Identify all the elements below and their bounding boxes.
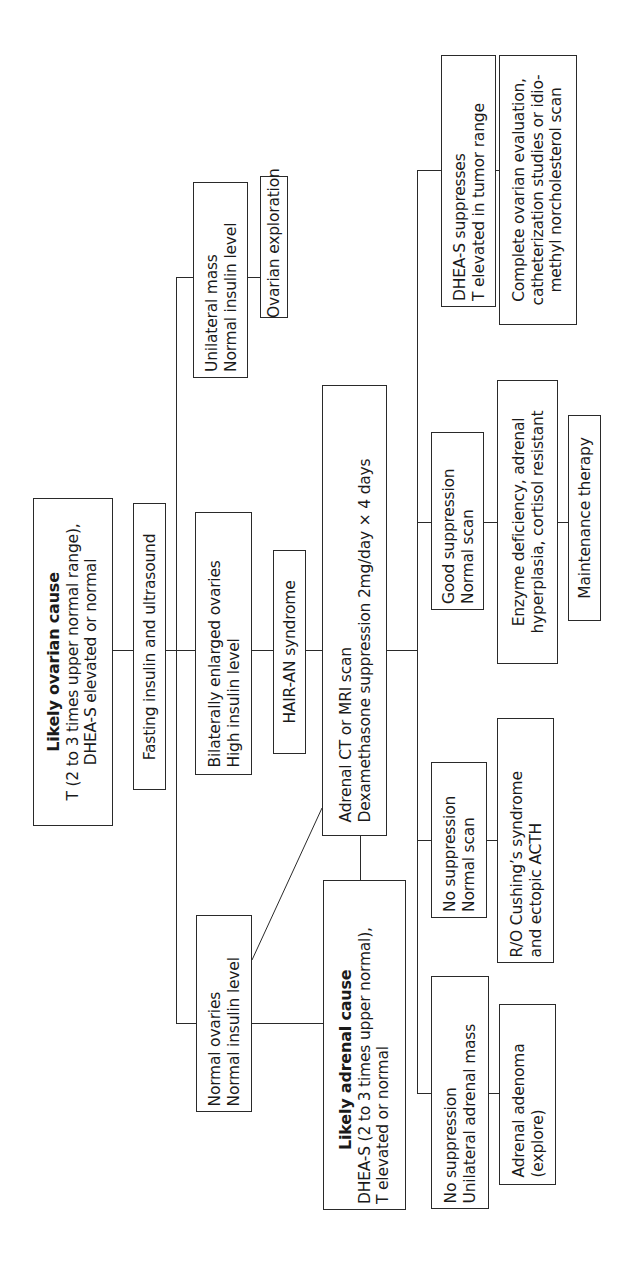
box-adrenal-adenoma: Adrenal adenoma (explore)	[499, 1004, 556, 1185]
likely-adrenal-cause-line2: T elevated or normal	[374, 880, 393, 1210]
connector-spine-nosupunilateral	[417, 1093, 431, 1094]
complete-eval-line3: methyl norcholesterol scan	[547, 55, 566, 325]
bilaterally-enlarged-line1: Bilaterally enlarged ovaries	[205, 512, 224, 775]
dhea-suppresses-line2: T elevated in tumor range	[469, 55, 488, 307]
box-likely-adrenal-cause: Likely adrenal cause DHEA-S (2 to 3 time…	[323, 880, 406, 1210]
connector-nosupnormal-cushings	[487, 840, 497, 841]
complete-eval-line2: catheterization studies or idio-	[529, 55, 548, 325]
box-adrenal-ct: Adrenal CT or MRI scan Dexamethasone sup…	[322, 385, 387, 836]
normal-ovaries-line2: Normal insulin level	[224, 915, 243, 1112]
normal-ovaries-line1: Normal ovaries	[206, 915, 225, 1112]
box-dhea-suppresses: DHEA-S suppresses T elevated in tumor ra…	[441, 55, 496, 307]
likely-adrenal-cause-line1: DHEA-S (2 to 3 times upper normal),	[355, 880, 374, 1210]
hair-an-text: HAIR-AN syndrome	[280, 550, 299, 754]
adrenal-adenoma-line1: Adrenal adenoma	[509, 1004, 528, 1185]
good-suppression-line1: Good suppression	[439, 432, 458, 610]
bilaterally-enlarged-line2: High insulin level	[224, 512, 243, 775]
maintenance-therapy-text: Maintenance therapy	[575, 415, 594, 621]
likely-adrenal-cause-title: Likely adrenal cause	[337, 880, 356, 1210]
box-normal-ovaries: Normal ovaries Normal insulin level	[196, 915, 252, 1112]
box-fasting-insulin: Fasting insulin and ultrasound	[133, 503, 166, 790]
no-suppression-normal-line2: Normal scan	[459, 762, 478, 918]
box-unilateral-mass: Unilateral mass Normal insulin level	[193, 182, 248, 378]
ro-cushings-line1: R/O Cushing’s syndrome	[507, 718, 526, 963]
box-bilaterally-enlarged: Bilaterally enlarged ovaries High insuli…	[195, 512, 252, 775]
enzyme-deficiency-line2: hyperplasia, cortisol resistant	[528, 380, 547, 664]
suppression-spine	[417, 170, 418, 1094]
connector-adrenal-adrenalct	[360, 836, 361, 880]
no-suppression-unilateral-line1: No suppression	[442, 976, 461, 1209]
good-suppression-line2: Normal scan	[458, 432, 477, 610]
complete-eval-line1: Complete ovarian evaluation,	[510, 55, 529, 325]
box-hair-an: HAIR-AN syndrome	[273, 550, 306, 754]
ro-cushings-line2: and ectopic ACTH	[526, 718, 545, 963]
box-no-suppression-unilateral: No suppression Unilateral adrenal mass	[431, 976, 489, 1209]
box-likely-ovarian-cause: Likely ovarian cause T (2 to 3 times upp…	[33, 498, 113, 826]
box-complete-ovarian-evaluation: Complete ovarian evaluation, catheteriza…	[499, 55, 577, 325]
connector-nosupunilateral-adenoma	[489, 1093, 499, 1094]
connector-spine-good	[417, 522, 431, 523]
box-ovarian-exploration: Ovarian exploration	[260, 176, 288, 318]
likely-ovarian-cause-line1: T (2 to 3 times upper normal range),	[64, 498, 83, 826]
connector-spine-nosupnormal	[417, 840, 431, 841]
box-no-suppression-normal-scan: No suppression Normal scan	[431, 762, 487, 918]
likely-ovarian-cause-title: Likely ovarian cause	[45, 498, 64, 826]
connector-good-enzyme	[484, 522, 497, 523]
likely-ovarian-cause-line2: DHEA-S elevated or normal	[82, 498, 101, 826]
enzyme-deficiency-line1: Enzyme deficiency, adrenal	[509, 380, 528, 664]
box-enzyme-deficiency: Enzyme deficiency, adrenal hyperplasia, …	[497, 380, 558, 664]
adrenal-ct-line2: Dexamethasone suppression 2mg/day × 4 da…	[355, 385, 374, 836]
no-suppression-normal-line1: No suppression	[441, 762, 460, 918]
box-ro-cushings: R/O Cushing’s syndrome and ectopic ACTH	[497, 718, 554, 963]
box-good-suppression: Good suppression Normal scan	[431, 432, 484, 610]
connector-adrenalct-spine	[387, 650, 417, 651]
box-maintenance-therapy: Maintenance therapy	[568, 415, 601, 621]
ovarian-exploration-text: Ovarian exploration	[265, 176, 284, 318]
connector-spine-dhea	[417, 170, 441, 171]
connector-enzyme-maintenance	[558, 522, 568, 523]
unilateral-mass-line2: Normal insulin level	[221, 182, 240, 378]
no-suppression-unilateral-line2: Unilateral adrenal mass	[460, 976, 479, 1209]
dhea-suppresses-line1: DHEA-S suppresses	[450, 55, 469, 307]
adrenal-adenoma-line2: (explore)	[528, 1004, 547, 1185]
fasting-insulin-text: Fasting insulin and ultrasound	[140, 503, 159, 790]
adrenal-ct-line1: Adrenal CT or MRI scan	[336, 385, 355, 836]
unilateral-mass-line1: Unilateral mass	[202, 182, 221, 378]
